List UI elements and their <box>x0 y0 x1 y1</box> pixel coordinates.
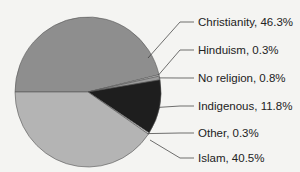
leader-line <box>158 106 194 107</box>
leader-line <box>148 133 194 134</box>
label-other: Other, 0.3% <box>198 127 259 139</box>
label-islam: Islam, 40.5% <box>198 152 264 164</box>
pie-chart: Christianity, 46.3% Hinduism, 0.3% No re… <box>0 0 300 172</box>
slice-labels: Christianity, 46.3% Hinduism, 0.3% No re… <box>198 16 293 164</box>
label-hinduism: Hinduism, 0.3% <box>198 44 279 56</box>
label-indigenous: Indigenous, 11.8% <box>198 100 292 112</box>
leader-line <box>148 22 194 58</box>
label-christianity: Christianity, 46.3% <box>198 16 293 28</box>
leader-line <box>158 50 194 75</box>
pie-slices <box>15 17 161 167</box>
leader-line <box>150 140 194 158</box>
label-no-religion: No religion, 0.8% <box>198 72 286 84</box>
